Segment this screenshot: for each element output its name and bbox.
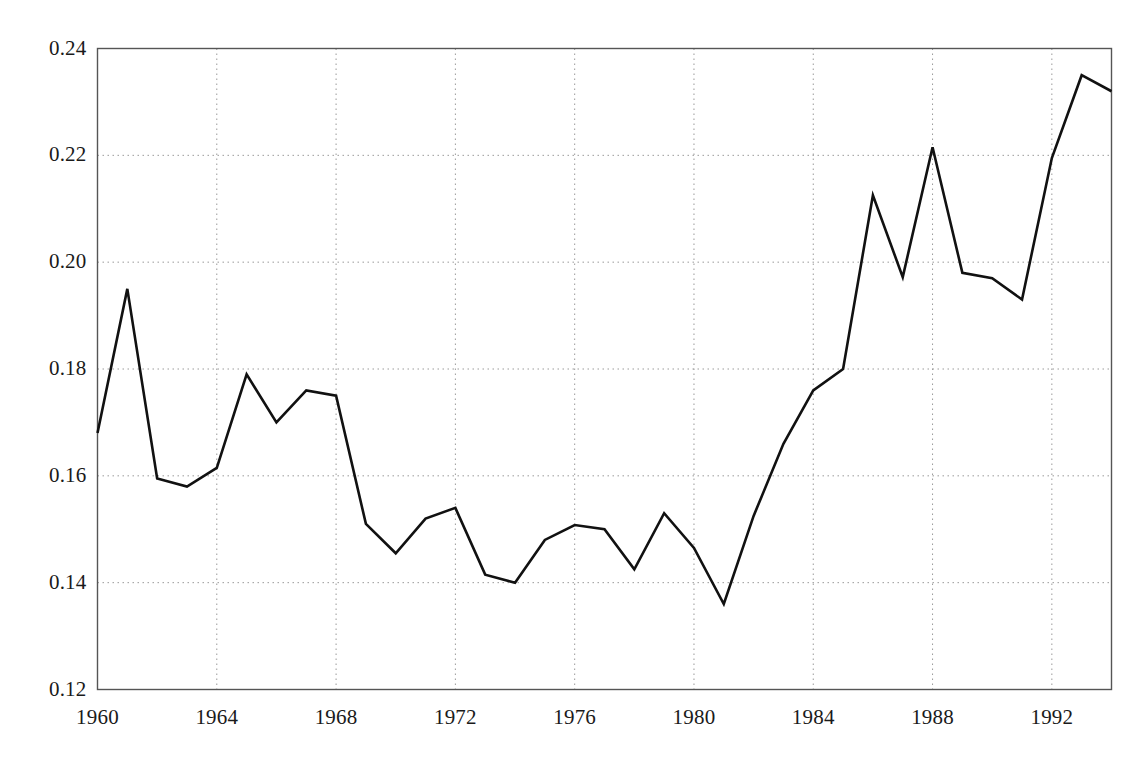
- x-tick-label: 1980: [649, 705, 739, 730]
- chart-canvas: [0, 0, 1146, 765]
- y-tick-label: 0.20: [49, 249, 87, 274]
- x-tick-label: 1964: [172, 705, 262, 730]
- plot-area-frame: [98, 49, 1112, 690]
- data-series-layer: [98, 75, 1112, 604]
- line-chart: 0.120.140.160.180.200.220.24 19601964196…: [0, 0, 1146, 765]
- y-tick-label: 0.12: [49, 677, 87, 702]
- x-tick-label: 1988: [888, 705, 978, 730]
- data-line-1: [98, 75, 1112, 604]
- x-tick-label: 1972: [410, 705, 500, 730]
- x-tick-label: 1976: [530, 705, 620, 730]
- y-tick-label: 0.14: [49, 570, 87, 595]
- y-tick-label: 0.18: [49, 356, 87, 381]
- y-tick-label: 0.24: [49, 36, 87, 61]
- horizontal-gridlines: [98, 155, 1112, 582]
- x-tick-label: 1984: [768, 705, 858, 730]
- x-tick-label: 1968: [291, 705, 381, 730]
- y-tick-label: 0.16: [49, 463, 87, 488]
- x-tick-label: 1992: [1007, 705, 1097, 730]
- x-tick-label: 1960: [53, 705, 143, 730]
- vertical-gridlines: [217, 49, 1052, 690]
- y-tick-label: 0.22: [49, 142, 87, 167]
